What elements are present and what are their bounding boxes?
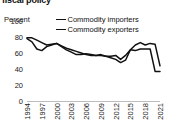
x-axis-tick: 2006	[82, 103, 91, 120]
x-axis-tick: 2003	[67, 103, 76, 120]
x-axis-tick: 2012	[112, 103, 121, 120]
x-axis-tick-group: 1994199720002003200620092012201520182021	[27, 103, 160, 137]
x-axis-tick: 2021	[156, 103, 165, 120]
y-axis-tick: 20	[3, 81, 23, 90]
x-axis-tick: 2018	[141, 103, 150, 120]
x-axis-tick: 2000	[53, 103, 62, 120]
y-axis-tick: 60	[3, 49, 23, 58]
series-line	[27, 39, 160, 66]
x-axis-tick: 1997	[38, 103, 47, 120]
y-axis-tick: 0	[3, 97, 23, 106]
y-axis-tick-group: 100806040200	[3, 0, 23, 137]
y-axis-tick: 40	[3, 65, 23, 74]
y-axis-tick: 100	[3, 17, 23, 26]
plot-area	[27, 21, 160, 101]
x-axis-line	[27, 101, 160, 102]
series-lines	[27, 21, 160, 101]
y-axis-tick: 80	[3, 33, 23, 42]
chart-figure: fiscal policy Percent 100806040200 Commo…	[0, 0, 170, 137]
x-axis-tick: 1994	[23, 103, 32, 120]
x-axis-tick: 2015	[126, 103, 135, 120]
x-axis-tick: 2009	[97, 103, 106, 120]
legend-line-icon	[56, 19, 66, 20]
